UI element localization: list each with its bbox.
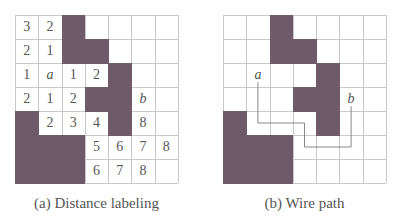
distance-cell: 8 xyxy=(131,111,154,135)
distance-cell: 1 xyxy=(38,87,61,111)
distance-cell: 7 xyxy=(108,159,131,183)
blocked-cell xyxy=(38,159,62,184)
distance-cell: 5 xyxy=(85,135,108,159)
caption-b: (b) Wire path xyxy=(223,195,386,212)
terminal-label-a: a xyxy=(38,63,61,87)
distance-cell: 2 xyxy=(38,15,61,39)
caption-a: (a) Distance labeling xyxy=(15,195,178,212)
distance-cell: 2 xyxy=(15,39,38,63)
terminal-label-b: b xyxy=(131,87,154,111)
distance-cell: 2 xyxy=(85,63,108,87)
blocked-cell xyxy=(108,63,132,88)
blocked-cell xyxy=(62,15,86,40)
distance-cell: 2 xyxy=(62,87,85,111)
distance-cell: 4 xyxy=(85,111,108,135)
distance-cell: 3 xyxy=(62,111,85,135)
blocked-cell xyxy=(62,159,86,184)
blocked-cell xyxy=(38,135,62,160)
distance-cell: 1 xyxy=(38,39,61,63)
blocked-cell xyxy=(15,135,39,160)
blocked-cell xyxy=(85,87,109,112)
grid-line xyxy=(386,15,387,183)
blocked-cell xyxy=(62,39,86,64)
blocked-cell xyxy=(15,111,39,136)
wire-path-grid: ab xyxy=(223,15,386,183)
distance-grid: 32211a12212b23485678678 xyxy=(15,15,178,183)
wire-path xyxy=(223,15,386,183)
distance-cell: 7 xyxy=(131,135,154,159)
distance-cell: 1 xyxy=(62,63,85,87)
distance-cell: 8 xyxy=(155,135,178,159)
distance-cell: 2 xyxy=(15,87,38,111)
blocked-cell xyxy=(62,135,86,160)
distance-cell: 6 xyxy=(108,135,131,159)
distance-cell: 3 xyxy=(15,15,38,39)
blocked-cell xyxy=(15,159,39,184)
blocked-cell xyxy=(85,39,109,64)
distance-cell: 1 xyxy=(15,63,38,87)
grid-line xyxy=(178,15,179,183)
distance-cell: 2 xyxy=(38,111,61,135)
distance-cell: 6 xyxy=(85,159,108,183)
blocked-cell xyxy=(108,87,132,112)
distance-cell: 8 xyxy=(131,159,154,183)
blocked-cell xyxy=(108,111,132,136)
